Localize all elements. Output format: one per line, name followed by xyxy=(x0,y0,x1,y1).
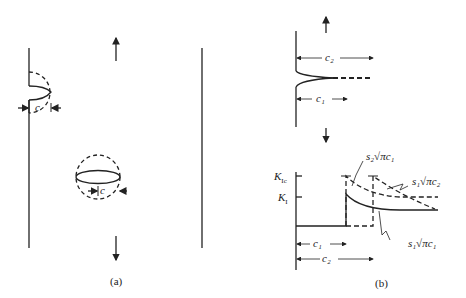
annotation-s1-sqrt-pi-c2: s₁√πc₂ xyxy=(412,176,440,187)
c2-label: c₂ xyxy=(325,52,334,63)
edge-crack-length-label: c xyxy=(35,102,40,113)
kic-label: KIc xyxy=(274,171,287,185)
figure: c c (a) c₂ c₁ KIc KI s₂√πc₁ s₁√πc₂ s₁√πc… xyxy=(0,0,466,298)
graph-c1-label: c₁ xyxy=(313,238,322,249)
embedded-crack-length-label: c xyxy=(100,185,105,196)
annotation-s1-sqrt-pi-c1: s₁√πc₁ xyxy=(408,238,436,249)
c1-label: c₁ xyxy=(316,93,325,104)
annotation-s2-sqrt-pi-c1: s₂√πc₁ xyxy=(366,151,394,162)
panel-b-crack-growth xyxy=(296,17,373,142)
diagram-canvas xyxy=(0,0,466,298)
ki-label: KI xyxy=(278,192,288,206)
ki-curve-c1 xyxy=(296,194,438,226)
caption-a: (a) xyxy=(110,276,122,287)
caption-b: (b) xyxy=(375,278,388,289)
panel-a-plate xyxy=(29,38,202,260)
graph-c2-label: c₂ xyxy=(322,253,331,264)
